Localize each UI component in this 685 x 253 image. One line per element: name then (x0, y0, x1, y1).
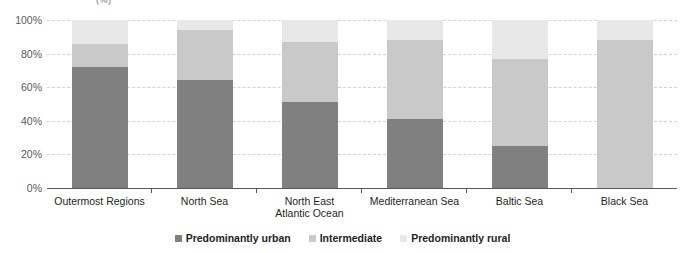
x-axis-label-line: Black Sea (574, 195, 675, 207)
bar-segment-intermediate[interactable] (597, 40, 653, 188)
bar-slot (572, 20, 677, 188)
stacked-bar[interactable] (387, 20, 443, 188)
x-axis-label: Mediterranean Sea (362, 195, 467, 219)
bar-segment-rural[interactable] (492, 20, 548, 59)
bar-segment-intermediate[interactable] (387, 40, 443, 119)
x-axis-tick (152, 188, 257, 194)
stacked-bar[interactable] (492, 20, 548, 188)
legend-item[interactable]: Predominantly rural (400, 232, 510, 244)
bar-segment-rural[interactable] (72, 20, 128, 44)
x-axis-label-line: North East (259, 195, 360, 207)
bar-segment-urban[interactable] (177, 80, 233, 188)
y-axis-tick-label: 20% (0, 148, 42, 160)
y-axis-tick-label: 40% (0, 115, 42, 127)
y-axis-tick-label: 0% (0, 182, 42, 194)
x-axis-tick (362, 188, 467, 194)
legend-swatch-icon (400, 235, 407, 242)
x-axis-label-line: Atlantic Ocean (259, 207, 360, 219)
bar-segment-urban[interactable] (387, 119, 443, 188)
stacked-bar[interactable] (282, 20, 338, 188)
x-axis-labels: Outermost RegionsNorth SeaNorth EastAtla… (47, 195, 677, 219)
plot-area (47, 20, 677, 188)
bar-segment-urban[interactable] (72, 67, 128, 188)
x-axis-tick (257, 188, 362, 194)
bar-segment-urban[interactable] (282, 102, 338, 188)
x-axis-label: Outermost Regions (47, 195, 152, 219)
bar-segment-rural[interactable] (597, 20, 653, 40)
bar-segment-rural[interactable] (282, 20, 338, 42)
stacked-bar-chart: (%) 100%80%60%40%20%0% Outermost Regions… (0, 0, 685, 253)
bar-slot (362, 20, 467, 188)
x-axis-label-line: North Sea (154, 195, 255, 207)
legend-label: Intermediate (320, 232, 382, 244)
axis-unit-label: (%) (96, 0, 112, 5)
bar-segment-intermediate[interactable] (492, 59, 548, 146)
bar-segment-intermediate[interactable] (72, 44, 128, 68)
legend-item[interactable]: Intermediate (309, 232, 382, 244)
y-axis-tick-label: 100% (0, 14, 42, 26)
x-axis-label: North Sea (152, 195, 257, 219)
legend-label: Predominantly rural (411, 232, 510, 244)
stacked-bar[interactable] (72, 20, 128, 188)
x-axis-tick (467, 188, 572, 194)
x-axis-label: North EastAtlantic Ocean (257, 195, 362, 219)
stacked-bar[interactable] (597, 20, 653, 188)
y-axis-tick-label: 80% (0, 48, 42, 60)
legend-label: Predominantly urban (186, 232, 291, 244)
legend-swatch-icon (175, 235, 182, 242)
legend-swatch-icon (309, 235, 316, 242)
x-axis-tick (572, 188, 677, 194)
x-axis-label-line: Baltic Sea (469, 195, 570, 207)
legend-item[interactable]: Predominantly urban (175, 232, 291, 244)
bar-segment-urban[interactable] (492, 146, 548, 188)
chart-legend: Predominantly urbanIntermediatePredomina… (0, 232, 685, 244)
x-axis-label-line: Mediterranean Sea (364, 195, 465, 207)
stacked-bar[interactable] (177, 20, 233, 188)
bar-segment-rural[interactable] (387, 20, 443, 40)
bar-segment-intermediate[interactable] (282, 42, 338, 102)
bar-slot (467, 20, 572, 188)
x-axis-label-line: Outermost Regions (49, 195, 150, 207)
x-axis-ticks (47, 188, 677, 194)
bar-slot (257, 20, 362, 188)
bar-slot (47, 20, 152, 188)
bar-segment-rural[interactable] (177, 20, 233, 30)
x-axis-label: Black Sea (572, 195, 677, 219)
bar-group (47, 20, 677, 188)
bar-slot (152, 20, 257, 188)
bar-segment-intermediate[interactable] (177, 30, 233, 80)
x-axis-tick (47, 188, 152, 194)
x-axis-label: Baltic Sea (467, 195, 572, 219)
y-axis-tick-label: 60% (0, 81, 42, 93)
